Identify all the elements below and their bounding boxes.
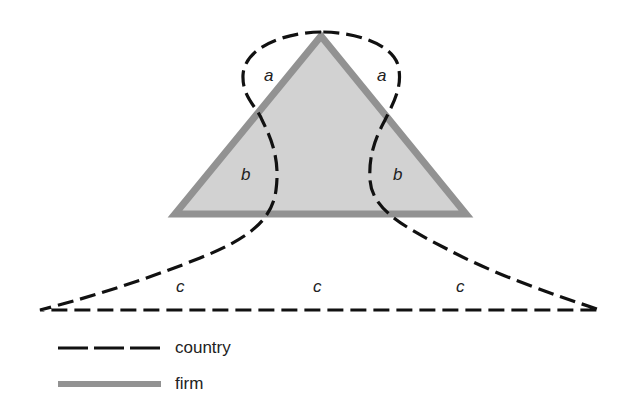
- region-label-c-left: c: [176, 277, 185, 296]
- region-label-c-center: c: [313, 277, 322, 296]
- firm-triangle: [175, 36, 466, 214]
- legend-label-firm: firm: [175, 374, 203, 394]
- region-label-a-left: a: [264, 66, 273, 85]
- region-label-b-right: b: [393, 165, 402, 184]
- region-label-c-right: c: [456, 277, 465, 296]
- legend-item-country: country: [58, 338, 231, 358]
- region-label-a-right: a: [377, 66, 386, 85]
- legend-item-firm: firm: [58, 374, 203, 394]
- solid-gray-line-icon: [58, 380, 161, 388]
- region-label-b-left: b: [241, 165, 250, 184]
- legend-label-country: country: [175, 338, 231, 358]
- dashed-line-icon: [58, 344, 161, 352]
